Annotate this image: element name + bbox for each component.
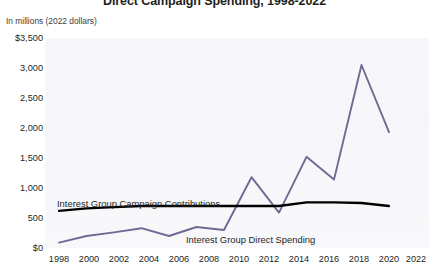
- chart-figure: Direct Campaign Spending, 1998-2022 In m…: [0, 0, 429, 269]
- chart-plot-lines: [0, 0, 429, 269]
- series-label-campaign-contributions: Interest Group Campaign Contributions: [57, 198, 220, 209]
- line-interest-group-direct-spending: [59, 65, 389, 243]
- series-label-direct-spending: Interest Group Direct Spending: [186, 234, 315, 245]
